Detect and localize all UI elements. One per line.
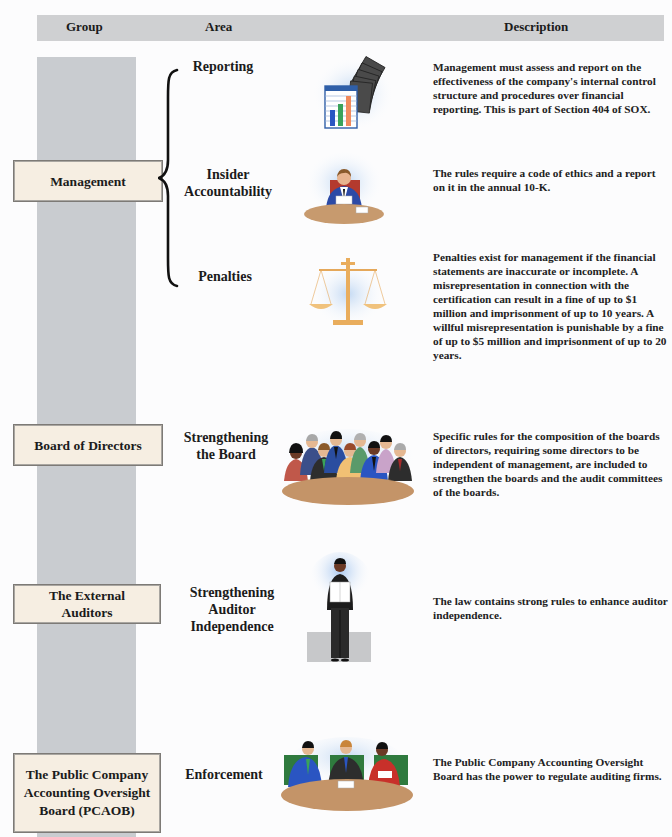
group-label: Board of Directors xyxy=(34,437,142,454)
area-label: Insider Accountability xyxy=(184,167,272,199)
table-header: Group Area Description xyxy=(37,15,664,41)
group-label: Management xyxy=(50,173,126,190)
description-insider-accountability: The rules require a code of ethics and a… xyxy=(433,166,669,194)
scales-of-justice-icon xyxy=(303,254,393,332)
area-penalties: Penalties xyxy=(180,268,270,285)
area-strengthening-auditor-independence: Strengthening Auditor Independence xyxy=(180,584,284,635)
area-label: Strengthening the Board xyxy=(184,430,269,462)
area-reporting: Reporting xyxy=(178,58,268,75)
group-box-pcaob: The Public Company Accounting Oversight … xyxy=(13,753,161,833)
description-reporting: Management must assess and report on the… xyxy=(433,60,669,116)
description-strengthening-board: Specific rules for the composition of th… xyxy=(433,429,669,499)
board-members-icon xyxy=(280,425,416,507)
executive-at-desk-icon xyxy=(298,150,390,230)
financial-reports-icon xyxy=(305,52,395,134)
area-strengthening-board: Strengthening the Board xyxy=(176,429,276,463)
auditor-standing-icon xyxy=(305,550,375,670)
group-box-external-auditors: The External Auditors xyxy=(13,584,161,624)
description-enforcement: The Public Company Accounting Oversight … xyxy=(433,755,669,783)
column-header-description: Description xyxy=(504,19,568,35)
group-label: The Public Company Accounting Oversight … xyxy=(18,766,156,820)
description-auditor-independence: The law contains strong rules to enhance… xyxy=(433,594,669,622)
oversight-board-meeting-icon xyxy=(278,735,416,815)
group-box-management: Management xyxy=(13,160,163,202)
area-insider-accountability: Insider Accountability xyxy=(176,166,280,200)
area-label: Strengthening Auditor Independence xyxy=(190,585,275,634)
column-header-area: Area xyxy=(205,19,232,35)
group-box-board-of-directors: Board of Directors xyxy=(13,424,163,466)
column-header-group: Group xyxy=(66,19,103,35)
description-penalties: Penalties exist for management if the fi… xyxy=(433,250,669,362)
area-enforcement: Enforcement xyxy=(178,766,270,783)
group-label: The External Auditors xyxy=(32,587,142,621)
